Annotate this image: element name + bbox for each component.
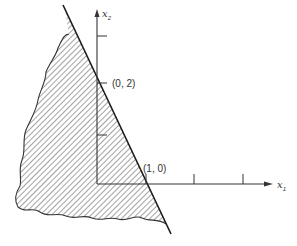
- x-axis-label: x1: [277, 179, 286, 192]
- point-label-0-2: (0, 2): [112, 78, 135, 89]
- feasible-region-diagram: x2 x1 (0, 2) (1, 0): [0, 0, 297, 246]
- hatched-region: [0, 0, 297, 246]
- arrow-up-icon: [95, 9, 100, 17]
- arrow-right-icon: [264, 182, 273, 187]
- y-axis-label: x2: [102, 8, 112, 21]
- point-label-1-0: (1, 0): [143, 163, 166, 174]
